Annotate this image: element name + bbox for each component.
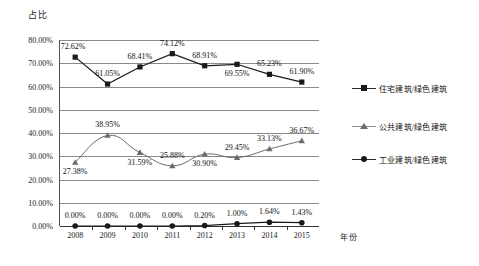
- y-tick-label: 40.00%: [28, 129, 53, 138]
- data-label: 33.13%: [257, 134, 282, 143]
- gridline: [60, 40, 319, 41]
- y-tick-label: 0.00%: [32, 222, 53, 231]
- legend-label: 住宅建筑/绿色建筑: [379, 83, 447, 94]
- x-tickmark: [125, 226, 126, 230]
- data-label: 65.23%: [257, 59, 282, 68]
- data-label: 1.00%: [227, 209, 248, 218]
- x-tickmark: [222, 226, 223, 230]
- y-tick-label: 30.00%: [28, 152, 53, 161]
- data-label: 69.55%: [225, 69, 250, 78]
- y-axis-tick-labels: 0.00%10.00%20.00%30.00%40.00%50.00%60.00…: [0, 0, 57, 266]
- legend-item[interactable]: 住宅建筑/绿色建筑: [352, 82, 447, 94]
- y-tick-label: 70.00%: [28, 59, 53, 68]
- data-label: 30.90%: [192, 159, 217, 168]
- data-label: 0.00%: [65, 211, 86, 220]
- y-tick-label: 50.00%: [28, 105, 53, 114]
- x-tickmark: [287, 226, 288, 230]
- y-tick-label: 10.00%: [28, 198, 53, 207]
- data-label: 68.41%: [128, 52, 153, 61]
- x-tick-label: 2011: [164, 231, 180, 240]
- gridline: [60, 110, 319, 111]
- x-tickmark: [254, 226, 255, 230]
- x-tick-label: 2008: [67, 231, 83, 240]
- x-tick-label: 2014: [261, 231, 277, 240]
- data-label: 0.00%: [162, 211, 183, 220]
- data-label: 74.12%: [160, 39, 185, 48]
- legend-label: 工业建筑/绿色建筑: [379, 154, 447, 165]
- x-tickmark: [92, 226, 93, 230]
- data-label: 72.62%: [61, 42, 86, 51]
- legend-item[interactable]: 公共建筑/绿色建筑: [352, 120, 447, 132]
- chart-legend: 住宅建筑/绿色建筑公共建筑/绿色建筑工业建筑/绿色建筑: [352, 0, 479, 266]
- data-label: 0.20%: [194, 211, 215, 220]
- y-tick-label: 80.00%: [28, 36, 53, 45]
- data-label: 61.90%: [289, 67, 314, 76]
- data-label: 29.45%: [225, 143, 250, 152]
- y-tick-label: 60.00%: [28, 82, 53, 91]
- gridline: [60, 87, 319, 88]
- x-tick-label: 2015: [294, 231, 310, 240]
- gridline: [60, 203, 319, 204]
- x-tickmark: [157, 226, 158, 230]
- x-tick-label: 2010: [132, 231, 148, 240]
- data-label: 61.05%: [95, 69, 120, 78]
- data-label: 38.95%: [95, 120, 120, 129]
- data-label: 68.91%: [192, 51, 217, 60]
- data-label: 1.43%: [291, 208, 312, 217]
- data-label: 0.00%: [97, 211, 118, 220]
- x-tick-label: 2013: [229, 231, 245, 240]
- x-tickmark: [190, 226, 191, 230]
- legend-label: 公共建筑/绿色建筑: [379, 121, 447, 132]
- x-tick-label: 2009: [100, 231, 116, 240]
- data-label: 36.67%: [289, 126, 314, 135]
- x-tick-label: 2012: [197, 231, 213, 240]
- legend-marker-circle-icon: [352, 154, 376, 164]
- legend-marker-square-icon: [352, 83, 376, 93]
- data-label: 31.59%: [128, 158, 153, 167]
- legend-item[interactable]: 工业建筑/绿色建筑: [352, 153, 447, 165]
- data-label: 0.00%: [130, 211, 151, 220]
- data-label: 1.64%: [259, 207, 280, 216]
- data-label: 25.88%: [160, 151, 185, 160]
- y-tick-label: 20.00%: [28, 175, 53, 184]
- legend-marker-triangle-icon: [352, 121, 376, 131]
- chart-container: 占比 年份 0.00%10.00%20.00%30.00%40.00%50.00…: [0, 0, 479, 266]
- data-label: 27.38%: [63, 167, 88, 176]
- gridline: [60, 156, 319, 157]
- gridline: [60, 180, 319, 181]
